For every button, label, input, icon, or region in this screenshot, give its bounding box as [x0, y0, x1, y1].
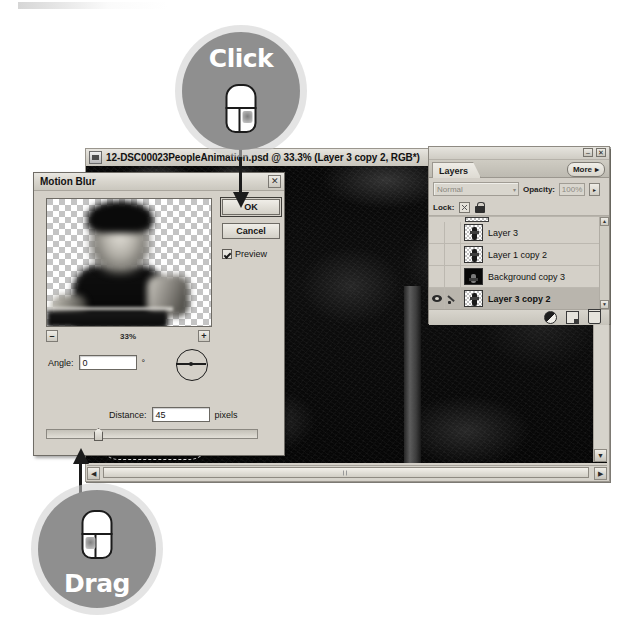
- brush-icon[interactable]: [447, 294, 458, 304]
- preview-foreground: [47, 311, 167, 327]
- screenshot-root: 12-DSC00023PeopleAnimation.psd @ 33.3% (…: [0, 0, 639, 624]
- scroll-right-button[interactable]: ▶: [594, 467, 607, 480]
- layers-palette-bottom-bar: [429, 309, 609, 325]
- lock-icon[interactable]: [475, 202, 485, 213]
- angle-label: Angle:: [48, 358, 74, 368]
- layer-name: Layer 3 copy 2: [488, 294, 551, 304]
- cancel-button[interactable]: Cancel: [222, 223, 280, 239]
- close-icon: ✕: [271, 177, 279, 186]
- chevron-right-icon: ▸: [593, 186, 596, 193]
- horizontal-scrollbar-thumb[interactable]: [103, 467, 589, 478]
- distance-slider[interactable]: [46, 429, 258, 439]
- layers-scroll-up-button[interactable]: ▲: [600, 217, 609, 226]
- distance-unit: pixels: [215, 410, 238, 420]
- layers-tab-row: Layers More ▸: [429, 160, 609, 178]
- tab-layers-label: Layers: [439, 166, 468, 176]
- layer-visibility-cell[interactable]: [429, 288, 445, 309]
- mouse-divider-vertical: [239, 107, 241, 131]
- new-layer-icon[interactable]: [566, 311, 579, 324]
- preview-checkbox-label: Preview: [235, 249, 267, 259]
- delete-layer-icon[interactable]: [588, 311, 601, 324]
- close-icon: ✕: [598, 149, 604, 156]
- callout-drag-label: Drag: [38, 569, 156, 598]
- angle-row: Angle: 0 °: [48, 355, 145, 370]
- ok-button[interactable]: OK: [222, 199, 280, 215]
- opacity-label: Opacity:: [523, 185, 555, 194]
- minimize-icon: –: [586, 149, 590, 156]
- angle-dial[interactable]: [176, 349, 208, 381]
- layers-close-button[interactable]: ✕: [596, 148, 606, 157]
- photoshop-document-icon: [89, 151, 102, 164]
- mouse-right-button-highlight: [243, 111, 253, 123]
- scroll-left-button[interactable]: ◀: [87, 467, 100, 480]
- layer-thumbnail: [464, 290, 483, 307]
- layer-visibility-cell[interactable]: [429, 222, 445, 243]
- chevron-right-icon: ▸: [595, 165, 599, 174]
- tab-layers[interactable]: Layers: [432, 162, 481, 178]
- layer-visibility-cell[interactable]: [429, 266, 445, 287]
- canvas-horizontal-scrollbar[interactable]: ◀ ▶: [87, 465, 607, 480]
- page-artifact: [18, 2, 168, 9]
- drag-arrowhead: [73, 448, 89, 464]
- transparency-lock-icon[interactable]: [459, 202, 470, 213]
- mouse-icon: [226, 84, 257, 133]
- adjustment-layer-icon[interactable]: [544, 311, 557, 324]
- layers-scroll-down-button[interactable]: ▼: [600, 300, 609, 309]
- dialog-close-button[interactable]: ✕: [268, 175, 281, 188]
- opacity-stepper-button[interactable]: ▸: [589, 183, 600, 196]
- layer-thumbnail: [464, 224, 483, 241]
- layers-minimize-button[interactable]: –: [583, 148, 593, 157]
- angle-input[interactable]: 0: [79, 355, 137, 370]
- dialog-title: Motion Blur: [40, 176, 96, 187]
- document-title: 12-DSC00023PeopleAnimation.psd @ 33.3% (…: [106, 152, 420, 163]
- layer-name: Layer 3: [488, 228, 518, 238]
- scroll-down-button[interactable]: ▼: [594, 449, 607, 462]
- layer-link-cell[interactable]: [445, 288, 461, 309]
- zoom-out-button[interactable]: –: [46, 330, 58, 342]
- table-row-selected[interactable]: Layer 3 copy 2: [429, 288, 609, 309]
- layers-palette-titlebar[interactable]: – ✕: [429, 147, 609, 160]
- table-row[interactable]: Layer 1 copy 2: [429, 244, 609, 266]
- preview-checkbox-group[interactable]: Preview: [222, 249, 267, 259]
- layers-list[interactable]: Layer 3 Layer 1 copy 2 Background copy 3: [429, 216, 609, 309]
- chevron-down-icon: ▾: [513, 186, 516, 193]
- eye-icon[interactable]: [432, 295, 442, 302]
- palette-more-button[interactable]: More ▸: [567, 162, 605, 177]
- blend-mode-value: Normal: [437, 185, 463, 194]
- layer-name: Layer 1 copy 2: [488, 250, 547, 260]
- distance-label: Distance:: [109, 410, 147, 420]
- distance-slider-thumb[interactable]: [94, 428, 103, 441]
- table-row[interactable]: Background copy 3: [429, 266, 609, 288]
- layer-name: Background copy 3: [488, 272, 565, 282]
- layer-link-cell[interactable]: [445, 222, 461, 243]
- dialog-titlebar[interactable]: Motion Blur ✕: [34, 173, 284, 191]
- zoom-level: 33%: [120, 332, 136, 341]
- opacity-input[interactable]: 100%: [559, 183, 585, 196]
- table-row[interactable]: Layer 3: [429, 222, 609, 244]
- distance-input[interactable]: 45: [152, 407, 210, 422]
- mouse-divider-horizontal: [82, 533, 113, 535]
- mouse-icon: [82, 510, 113, 559]
- layer-thumbnail: [464, 268, 483, 285]
- scrollbar-grip: [343, 470, 349, 475]
- more-label: More: [573, 165, 592, 174]
- chevron-left-icon: ◀: [91, 470, 96, 477]
- layer-link-cell[interactable]: [445, 244, 461, 265]
- plus-icon: +: [201, 332, 206, 341]
- layers-vertical-scrollbar[interactable]: ▲ ▼: [599, 217, 609, 309]
- click-arrowhead: [233, 192, 249, 208]
- filter-preview[interactable]: [46, 198, 212, 327]
- layer-thumbnail: [464, 246, 483, 263]
- opacity-value: 100%: [562, 185, 582, 194]
- mouse-divider-horizontal: [226, 107, 257, 109]
- layer-visibility-cell[interactable]: [429, 244, 445, 265]
- zoom-in-button[interactable]: +: [198, 330, 210, 342]
- mouse-left-button-highlight: [86, 537, 96, 549]
- callout-click: Click: [182, 32, 300, 150]
- cancel-button-label: Cancel: [236, 226, 266, 236]
- chevron-right-icon: ▶: [598, 470, 603, 477]
- blend-mode-select[interactable]: Normal ▾: [433, 182, 519, 196]
- angle-value: 0: [83, 358, 88, 368]
- preview-checkbox[interactable]: [222, 249, 232, 259]
- layer-link-cell[interactable]: [445, 266, 461, 287]
